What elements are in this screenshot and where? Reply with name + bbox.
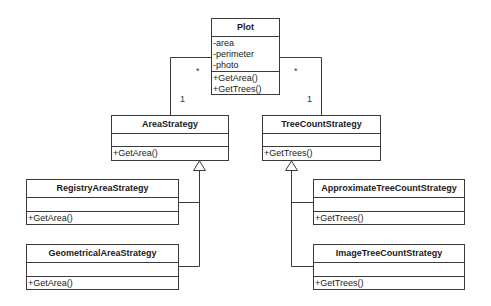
attribute: -area (213, 38, 279, 49)
generalization-arrow-treecount (286, 161, 298, 171)
class-name: TreeCountStrategy (263, 116, 380, 134)
multiplicity-plot-area-many: * (196, 66, 200, 76)
class-image-tree-count-strategy[interactable]: ImageTreeCountStrategy +GetTrees() (313, 244, 465, 290)
operation: +GetTrees() (315, 278, 464, 289)
operation: +GetTrees() (315, 213, 464, 224)
class-operations: +GetTrees() (263, 147, 380, 159)
class-attributes (112, 134, 228, 147)
generalization-arrow-area (194, 161, 206, 171)
class-tree-count-strategy[interactable]: TreeCountStrategy +GetTrees() (262, 115, 381, 161)
class-operations: +GetArea() +GetTrees() (212, 72, 279, 95)
class-name: RegistryAreaStrategy (27, 180, 178, 198)
class-area-strategy[interactable]: AreaStrategy +GetArea() (111, 115, 229, 161)
operation: +GetTrees() (264, 148, 380, 159)
multiplicity-area-one: 1 (180, 94, 185, 104)
class-operations: +GetArea() (27, 212, 178, 224)
class-operations: +GetArea() (27, 277, 178, 289)
class-name: Plot (212, 19, 279, 37)
class-attributes (263, 134, 380, 147)
class-operations: +GetArea() (112, 147, 228, 159)
class-attributes (27, 198, 178, 212)
class-attributes (314, 198, 464, 212)
class-plot[interactable]: Plot -area -perimeter -photo +GetArea() … (211, 18, 280, 95)
operation: +GetArea() (113, 148, 228, 159)
association-plot-area (171, 58, 212, 116)
class-attributes (314, 263, 464, 277)
class-registry-area-strategy[interactable]: RegistryAreaStrategy +GetArea() (26, 179, 179, 225)
class-attributes (27, 263, 178, 277)
attribute: -perimeter (213, 49, 279, 60)
class-name: ApproximateTreeCountStrategy (314, 180, 464, 198)
uml-diagram-canvas: * 1 * 1 Plot -area -perimeter -photo +Ge… (0, 0, 491, 306)
class-operations: +GetTrees() (314, 277, 464, 289)
operation: +GetArea() (213, 73, 279, 84)
class-operations: +GetTrees() (314, 212, 464, 224)
class-name: ImageTreeCountStrategy (314, 245, 464, 263)
multiplicity-plot-treecount-many: * (294, 66, 298, 76)
class-name: AreaStrategy (112, 116, 228, 134)
class-attributes: -area -perimeter -photo (212, 37, 279, 72)
attribute: -photo (213, 60, 279, 71)
multiplicity-treecount-one: 1 (307, 94, 312, 104)
class-name: GeometricalAreaStrategy (27, 245, 178, 263)
class-approximate-tree-count-strategy[interactable]: ApproximateTreeCountStrategy +GetTrees() (313, 179, 465, 225)
class-geometrical-area-strategy[interactable]: GeometricalAreaStrategy +GetArea() (26, 244, 179, 290)
operation: +GetTrees() (213, 84, 279, 95)
operation: +GetArea() (28, 213, 178, 224)
association-plot-treecount (279, 58, 322, 116)
operation: +GetArea() (28, 278, 178, 289)
